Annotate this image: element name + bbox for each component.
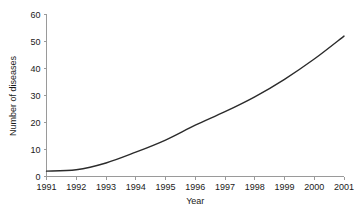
line-chart: 6050403020100 19911992199319941995199619…: [0, 0, 354, 211]
x-tick-label: 1998: [245, 182, 265, 192]
x-tick-label: 2000: [304, 182, 324, 192]
chart-background: [0, 0, 354, 211]
y-axis-title: Number of diseases: [8, 55, 18, 136]
y-tick-label: 20: [30, 118, 40, 128]
x-tick-label: 1999: [274, 182, 294, 192]
y-tick-label: 0: [35, 172, 40, 182]
x-tick-label: 2001: [334, 182, 354, 192]
x-tick-label: 1994: [126, 182, 146, 192]
y-tick-label: 50: [30, 37, 40, 47]
y-tick-label: 60: [30, 10, 40, 20]
x-tick-label: 1995: [155, 182, 175, 192]
x-axis-title: Year: [186, 196, 204, 206]
chart-figure: 6050403020100 19911992199319941995199619…: [0, 0, 354, 211]
y-tick-label: 40: [30, 64, 40, 74]
y-tick-label: 30: [30, 91, 40, 101]
x-tick-label: 1997: [215, 182, 235, 192]
y-tick-label: 10: [30, 145, 40, 155]
x-tick-label: 1992: [66, 182, 86, 192]
x-tick-label: 1996: [185, 182, 205, 192]
x-tick-label: 1991: [36, 182, 56, 192]
x-axis-tick-labels: 1991199219931994199519961997199819992000…: [36, 182, 354, 192]
x-tick-label: 1993: [96, 182, 116, 192]
